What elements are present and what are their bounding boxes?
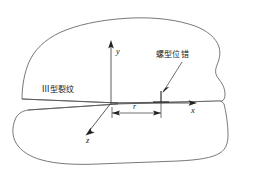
crack-label: III型裂纹 [42, 86, 74, 94]
radius-label: r [133, 103, 136, 111]
y-axis-label: y [116, 47, 120, 56]
body-outline-lower [13, 101, 228, 164]
figure-container: y x z r III型裂纹 螺型位错 [0, 0, 254, 181]
figure-drawing [0, 0, 254, 181]
dislocation-label: 螺型位错 [156, 51, 189, 59]
z-axis-label: z [86, 136, 89, 145]
x-axis-label: x [191, 106, 195, 115]
